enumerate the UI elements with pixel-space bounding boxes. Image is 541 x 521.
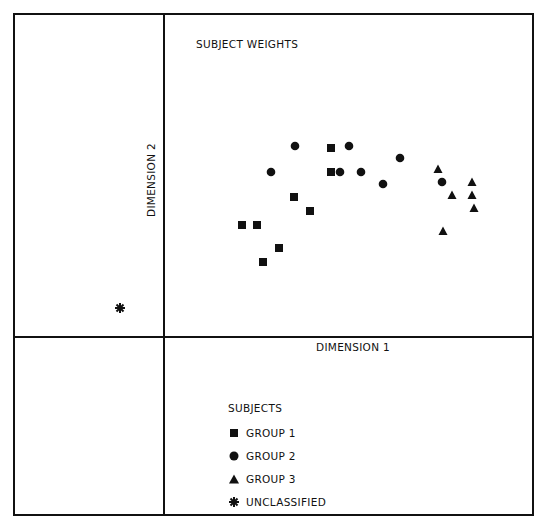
triangle-data-point: [468, 191, 477, 200]
legend-item-group-1: GROUP 1: [228, 425, 326, 440]
square-data-point: [259, 258, 267, 266]
legend-item-group-2: GROUP 2: [228, 448, 326, 463]
circle-data-point: [291, 142, 300, 151]
triangle-data-point: [448, 191, 457, 200]
square-data-point: [290, 193, 298, 201]
square-data-point: [327, 168, 335, 176]
asterisk-data-point: [115, 303, 125, 313]
circle-marker-icon: [228, 450, 240, 462]
square-data-point: [275, 244, 283, 252]
legend-item-group-3: GROUP 3: [228, 471, 326, 486]
legend: SUBJECTS GROUP 1 GROUP 2 GROUP 3 UNCLASS…: [228, 402, 326, 517]
circle-data-point: [267, 168, 276, 177]
circle-data-point: [357, 168, 366, 177]
square-data-point: [238, 221, 246, 229]
square-marker-icon: [228, 427, 240, 439]
triangle-data-point: [468, 178, 477, 187]
legend-title: SUBJECTS: [228, 402, 326, 414]
square-data-point: [306, 207, 314, 215]
circle-data-point: [396, 154, 405, 163]
square-data-point: [253, 221, 261, 229]
asterisk-marker-icon: [228, 496, 240, 508]
circle-data-point: [379, 180, 388, 189]
triangle-data-point: [434, 165, 443, 174]
circle-data-point: [336, 168, 345, 177]
triangle-data-point: [470, 204, 479, 213]
triangle-marker-icon: [228, 473, 240, 485]
triangle-data-point: [439, 227, 448, 236]
square-data-point: [327, 144, 335, 152]
circle-data-point: [345, 142, 354, 151]
legend-item-unclassified: UNCLASSIFIED: [228, 494, 326, 509]
circle-data-point: [438, 178, 447, 187]
